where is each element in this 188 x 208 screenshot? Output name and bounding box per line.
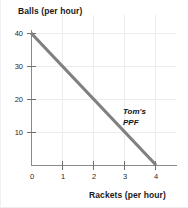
ppf-annotation-line-2: PPF bbox=[123, 117, 146, 128]
ppf-annotation-line-1: Tom's bbox=[123, 106, 146, 117]
ppf-line-svg bbox=[1, 0, 188, 208]
ppf-annotation: Tom's PPF bbox=[123, 106, 146, 128]
x-axis-title: Rackets (per hour) bbox=[89, 190, 166, 200]
ppf-chart-figure: Balls (per hour) 40 30 20 10 0 1 2 3 4 T… bbox=[0, 0, 188, 208]
ppf-line bbox=[31, 33, 156, 165]
